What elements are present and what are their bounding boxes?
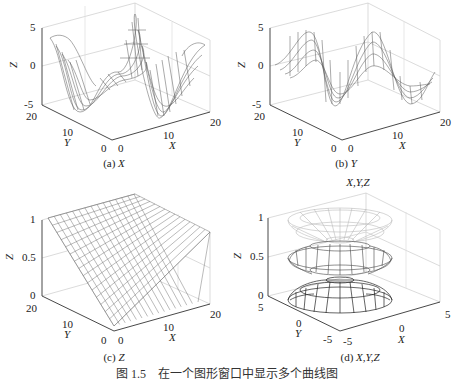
- d-title: X,Y,Z: [346, 176, 369, 188]
- c-xtick-20: 20: [210, 308, 221, 320]
- panel-b: [270, 3, 440, 140]
- c-ztick-05: 0.5: [22, 251, 36, 263]
- d-ytick-5: 5: [258, 301, 264, 313]
- surface-d-bottom: [288, 277, 392, 313]
- d-xtick-5: 5: [445, 308, 451, 320]
- b-ztick-5: 5: [258, 21, 264, 33]
- b-ytick-20: 20: [254, 110, 265, 122]
- d-ytick-neg5: -5: [323, 333, 332, 345]
- c-yaxis-title: Y: [64, 328, 70, 340]
- surface-c: [48, 194, 210, 326]
- surface-b: [275, 30, 435, 106]
- a-xtick-0: 0: [118, 142, 124, 154]
- c-ztick-1: 1: [30, 213, 36, 225]
- d-ztick-0: 0: [258, 289, 264, 301]
- c-zaxis-title: Z: [3, 254, 15, 260]
- a-zaxis-title: Z: [7, 62, 19, 68]
- panel-d: [268, 193, 440, 331]
- surface-d-middle: [288, 241, 392, 275]
- a-caption: (a) X: [103, 157, 125, 169]
- panel-a: [42, 3, 210, 140]
- c-xaxis-title: X: [169, 331, 176, 343]
- panel-c: [42, 194, 210, 331]
- d-ztick-1: 1: [258, 211, 264, 223]
- d-caption: (d) X,Y,Z: [340, 351, 379, 363]
- c-xtick-0: 0: [118, 334, 124, 346]
- c-ztick-0: 0: [30, 289, 36, 301]
- d-xaxis-title: X: [398, 333, 405, 345]
- a-yaxis-title: Y: [64, 136, 70, 148]
- a-zlabel-neg5: -5: [24, 98, 33, 110]
- a-xaxis-title: X: [169, 139, 176, 151]
- d-xtick-neg5: -5: [343, 335, 352, 347]
- surface-d-top: [288, 208, 392, 243]
- d-ztick-05: 0.5: [250, 250, 264, 262]
- b-ztick-neg5: -5: [252, 98, 261, 110]
- surface-a: [50, 14, 205, 118]
- figure-caption: 图 1.5 在一个图形窗口中显示多个曲线图: [116, 364, 338, 380]
- b-yaxis-title: Y: [294, 136, 300, 148]
- b-xtick-20: 20: [440, 116, 451, 128]
- c-ytick-0: 0: [101, 334, 107, 346]
- b-xtick-0: 0: [348, 142, 354, 154]
- c-ytick-20: 20: [26, 302, 37, 314]
- b-xaxis-title: X: [399, 139, 406, 151]
- d-yaxis-title: Y: [295, 327, 301, 339]
- a-ytick-20: 20: [26, 110, 37, 122]
- b-ztick-0: 0: [258, 59, 264, 71]
- a-ytick-0: 0: [101, 142, 107, 154]
- a-zlabel-0: 0: [30, 59, 36, 71]
- b-caption: (b) Y: [335, 157, 357, 169]
- b-ytick-0: 0: [331, 142, 337, 154]
- a-xtick-20: 20: [210, 116, 221, 128]
- a-zlabel-5: 5: [30, 21, 36, 33]
- c-caption: (c) Z: [103, 351, 124, 363]
- d-zaxis-title: Z: [231, 253, 243, 259]
- b-zaxis-title: Z: [235, 62, 247, 68]
